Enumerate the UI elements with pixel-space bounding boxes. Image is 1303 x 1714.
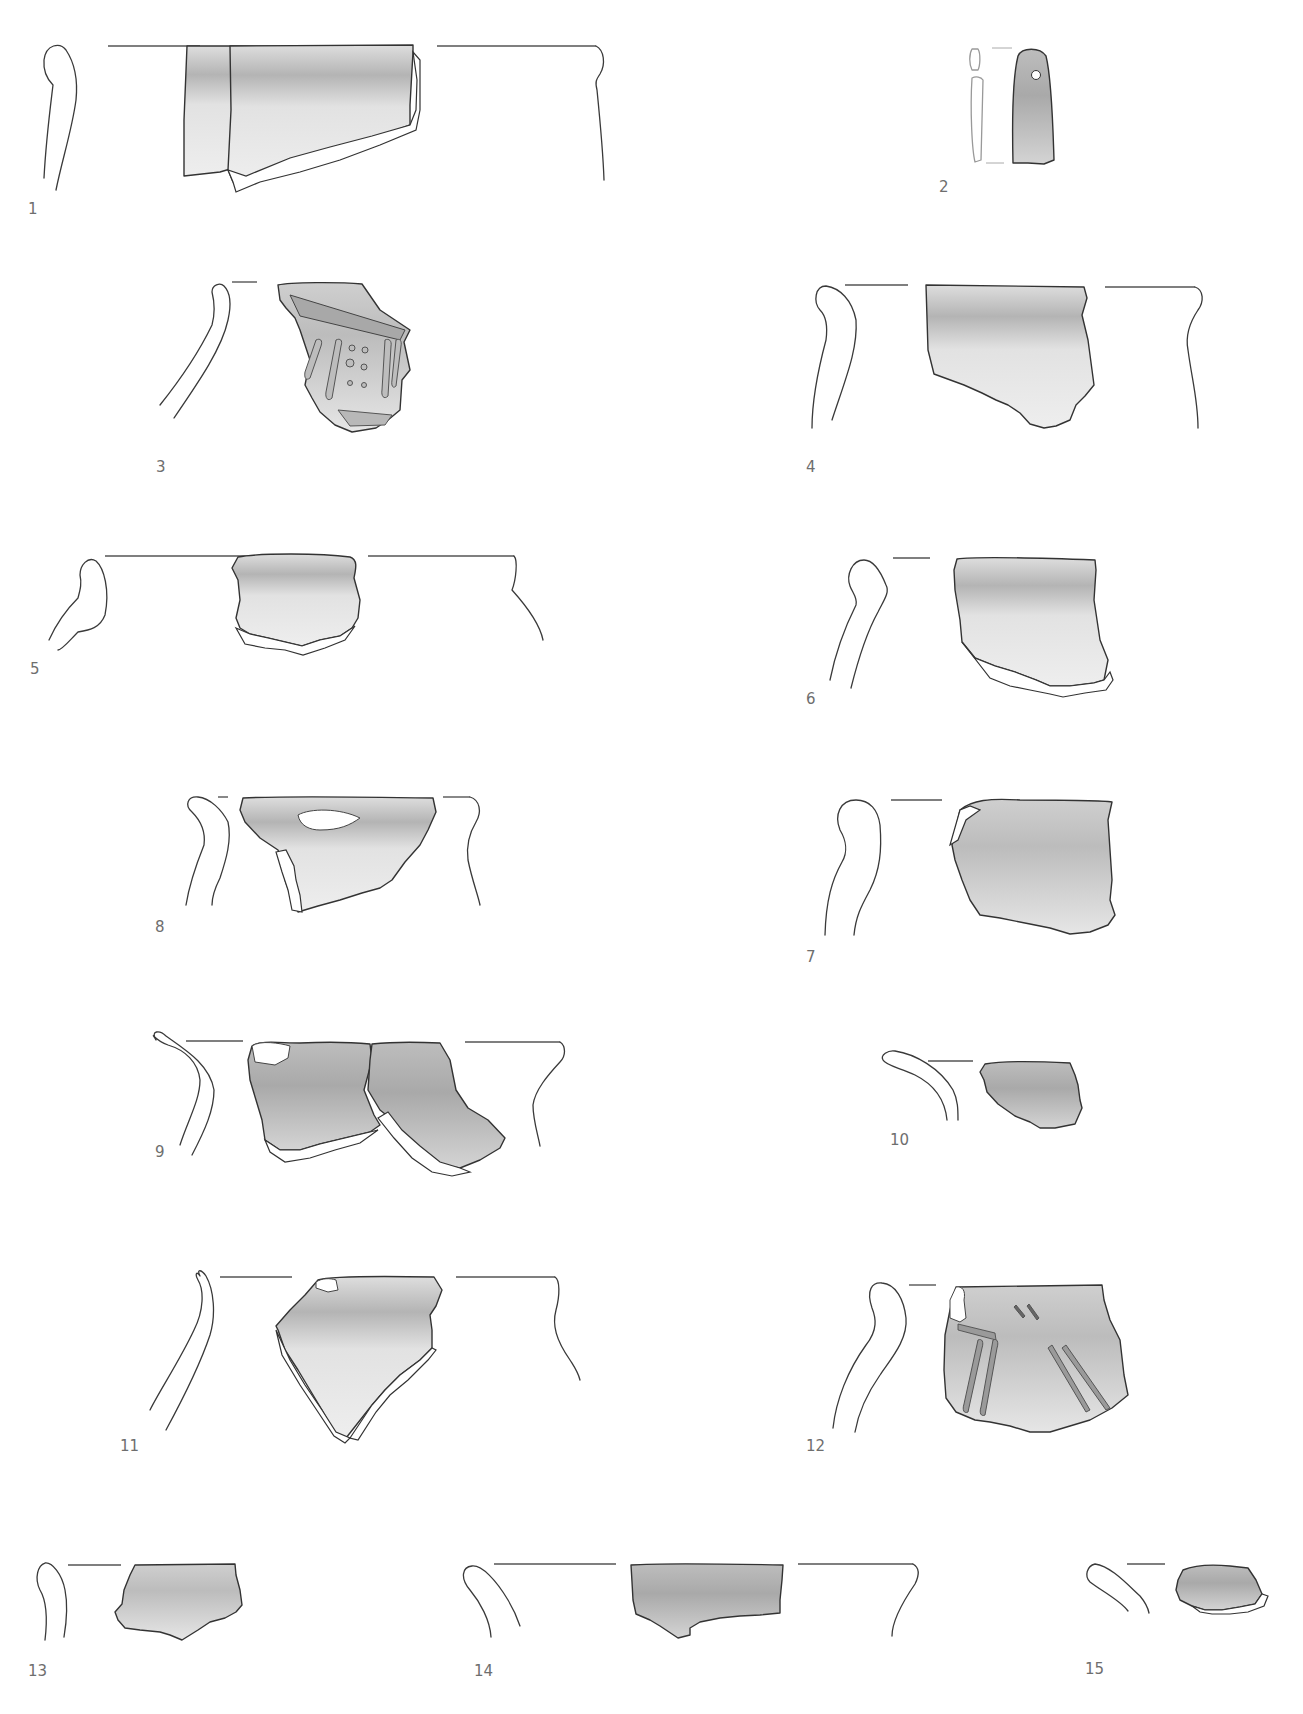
figure-label-4: 4 xyxy=(806,458,816,476)
figure-label-5: 5 xyxy=(30,660,40,678)
figure-2 xyxy=(970,48,1054,164)
figure-label-10: 10 xyxy=(890,1131,909,1149)
figure-label-11: 11 xyxy=(120,1437,139,1455)
figure-5 xyxy=(49,554,543,655)
figure-11 xyxy=(150,1271,580,1443)
figure-label-15: 15 xyxy=(1085,1660,1104,1678)
figure-label-7: 7 xyxy=(806,948,816,966)
figure-label-13: 13 xyxy=(28,1662,47,1680)
figure-13 xyxy=(37,1563,242,1640)
figure-6 xyxy=(830,557,1113,697)
figure-12 xyxy=(833,1283,1128,1432)
figure-label-1: 1 xyxy=(28,200,38,218)
figure-9 xyxy=(153,1032,564,1176)
figure-label-12: 12 xyxy=(806,1437,825,1455)
figure-4 xyxy=(812,285,1202,428)
figure-3 xyxy=(160,282,410,432)
figure-label-9: 9 xyxy=(155,1143,165,1161)
figure-label-8: 8 xyxy=(155,918,165,936)
figure-label-6: 6 xyxy=(806,690,816,708)
figure-15 xyxy=(1087,1564,1268,1614)
figure-label-3: 3 xyxy=(156,458,166,476)
pottery-plate: 1 2 3 4 5 6 8 7 9 10 11 12 13 14 15 xyxy=(0,0,1303,1714)
figure-8 xyxy=(186,797,480,912)
figure-label-2: 2 xyxy=(939,178,949,196)
figure-label-14: 14 xyxy=(474,1662,493,1680)
figure-1 xyxy=(44,45,604,192)
figure-14 xyxy=(463,1564,918,1638)
figure-10 xyxy=(882,1051,1082,1128)
figure-7 xyxy=(825,799,1115,935)
plate-drawings xyxy=(0,0,1303,1714)
